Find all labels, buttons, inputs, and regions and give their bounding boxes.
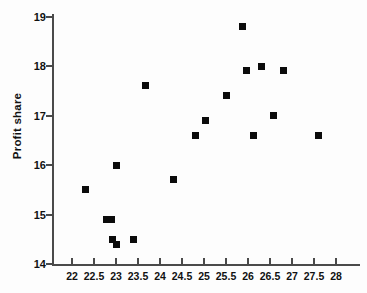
data-point: [270, 112, 277, 119]
data-point: [243, 67, 250, 74]
data-point: [82, 186, 89, 193]
data-point: [202, 117, 209, 124]
scatter-chart-figure: Profit share 141516171819 2222.52323.524…: [0, 0, 367, 293]
data-point: [258, 63, 265, 70]
data-point: [280, 67, 287, 74]
data-point: [315, 132, 322, 139]
data-point: [113, 162, 120, 169]
data-point: [239, 23, 246, 30]
data-point: [223, 92, 230, 99]
data-point: [170, 176, 177, 183]
data-point: [250, 132, 257, 139]
data-point: [108, 216, 115, 223]
data-point: [113, 241, 120, 248]
data-point: [142, 82, 149, 89]
data-point: [192, 132, 199, 139]
data-point: [130, 236, 137, 243]
plot-area: [0, 0, 367, 293]
